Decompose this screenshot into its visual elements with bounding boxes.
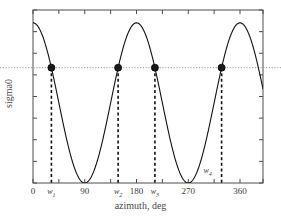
x-tick-label-0: 0 [31, 186, 36, 196]
x-axis-label: azimuth, deg [0, 200, 281, 211]
x-tick-label-270: 270 [182, 186, 196, 196]
marker-label-w4: w4 [203, 166, 211, 177]
plot-frame [33, 10, 263, 183]
marker-label-subscript: 2 [119, 192, 122, 198]
x-tick-label-180: 180 [130, 186, 144, 196]
marker-label-w2: w2 [114, 187, 122, 198]
x-tick-label-360: 360 [233, 186, 247, 196]
marker-label-subscript: 3 [156, 192, 159, 198]
x-tick-label-90: 90 [80, 186, 89, 196]
marker-label-subscript: 4 [209, 171, 212, 177]
marker-label-subscript: 1 [53, 192, 56, 198]
marker-label-w1: w1 [47, 187, 55, 198]
marker-label-w3: w3 [151, 187, 159, 198]
y-axis-label: sigma0 [3, 64, 14, 124]
